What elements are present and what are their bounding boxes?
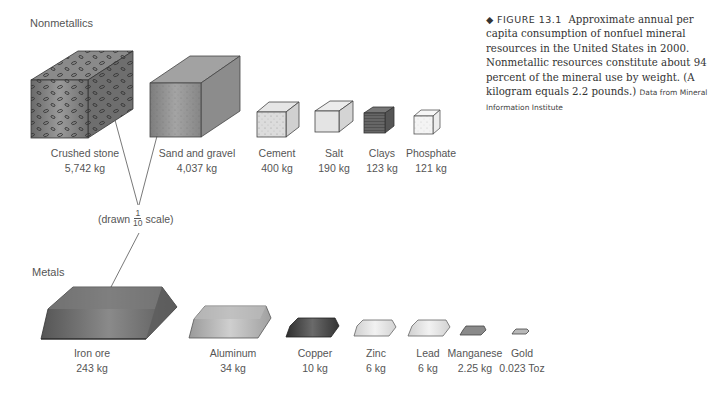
phosphate-cube [414, 110, 440, 134]
label-crushed-stone: Crushed stone 5,742 kg [40, 146, 130, 176]
scale-fraction: 1 10 [133, 209, 142, 228]
item-name: Lead [408, 346, 448, 361]
item-amount: 123 kg [362, 161, 402, 176]
item-name: Gold [496, 346, 548, 361]
item-amount: 34 kg [200, 361, 266, 376]
item-name: Clays [362, 146, 402, 161]
zinc-bar [354, 320, 396, 336]
cement-cube [257, 102, 299, 137]
item-amount: 6 kg [408, 361, 448, 376]
label-clays: Clays 123 kg [362, 146, 402, 176]
label-phosphate: Phosphate 121 kg [403, 146, 459, 176]
item-name: Phosphate [403, 146, 459, 161]
label-iron-ore: Iron ore 243 kg [62, 346, 122, 376]
caption-text: Approximate annual per capita consumptio… [486, 14, 707, 97]
item-amount: 243 kg [62, 361, 122, 376]
manganese-bar [460, 326, 486, 335]
scale-suffix: scale) [146, 213, 174, 225]
label-copper: Copper 10 kg [290, 346, 340, 376]
section-label-nonmetallics: Nonmetallics [30, 17, 93, 29]
item-name: Crushed stone [40, 146, 130, 161]
label-sand-and-gravel: Sand and gravel 4,037 kg [152, 146, 242, 176]
figure-label: FIGURE 13.1 [497, 14, 562, 25]
copper-bar [286, 318, 339, 337]
salt-cube [315, 101, 353, 132]
label-aluminum: Aluminum 34 kg [200, 346, 266, 376]
section-label-metals: Metals [32, 266, 64, 278]
gold-bar [512, 329, 529, 334]
label-lead: Lead 6 kg [408, 346, 448, 376]
clays-cube [364, 107, 394, 133]
item-name: Copper [290, 346, 340, 361]
iron-ore-bar [41, 287, 177, 339]
item-amount: 6 kg [356, 361, 396, 376]
sand-and-gravel-box [150, 56, 240, 137]
scale-note: (drawn 1 10 scale) [98, 209, 174, 228]
item-name: Iron ore [62, 346, 122, 361]
item-amount: 190 kg [312, 161, 356, 176]
item-amount: 4,037 kg [152, 161, 242, 176]
item-name: Sand and gravel [152, 146, 242, 161]
figure-caption: ◆ FIGURE 13.1 Approximate annual per cap… [486, 13, 712, 116]
item-name: Zinc [356, 346, 396, 361]
crushed-stone-cube [31, 51, 133, 138]
fraction-denominator: 10 [133, 219, 142, 228]
caption-bullet: ◆ [486, 14, 494, 25]
item-name: Aluminum [200, 346, 266, 361]
label-salt: Salt 190 kg [312, 146, 356, 176]
item-name: Cement [252, 146, 302, 161]
item-name: Salt [312, 146, 356, 161]
lead-bar [408, 320, 450, 336]
label-zinc: Zinc 6 kg [356, 346, 396, 376]
item-amount: 5,742 kg [40, 161, 130, 176]
item-amount: 0.023 Toz [496, 361, 548, 376]
item-amount: 121 kg [403, 161, 459, 176]
label-cement: Cement 400 kg [252, 146, 302, 176]
item-amount: 400 kg [252, 161, 302, 176]
label-gold: Gold 0.023 Toz [496, 346, 548, 376]
item-amount: 10 kg [290, 361, 340, 376]
scale-prefix: (drawn [98, 213, 130, 225]
aluminum-bar [189, 306, 271, 338]
